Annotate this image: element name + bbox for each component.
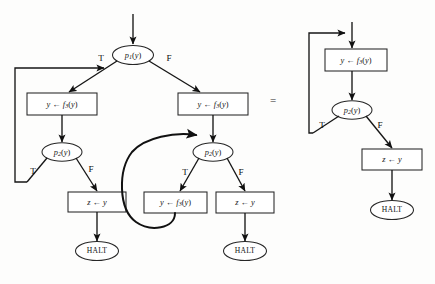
node2-z-label: z ← y [381,154,402,163]
right-diagram: y ← f3(y) p2(y) T F z ← y HALT [309,22,422,220]
node2-halt-label: HALT [382,205,403,214]
edge-label2-p2-true: T [319,120,325,130]
flowchart-canvas: p1(y) T F y ← f3(y) y ← f3(y) p2(y) p2(y… [0,0,435,284]
edge-p1-false [149,61,200,92]
edge-label-p1-true: T [98,53,104,63]
edge-left-p2-false [76,158,97,191]
node-left-p2-label: p2(y) [53,147,71,156]
node-left-halt-label: HALT [87,246,108,255]
node-right-halt-label: HALT [235,246,256,255]
node-left-z-label: z ← y [86,197,107,206]
edge-label-p1-false: F [166,53,171,63]
edge-label-right-p2-true: T [182,167,188,177]
node-p1-label: p1(y) [124,50,142,59]
equivalence-symbol: = [270,94,276,106]
edge-label-right-p2-false: F [238,167,243,177]
flowchart-figure: p1(y) T F y ← f3(y) y ← f3(y) p2(y) p2(y… [0,0,435,284]
node2-assign-label: y ← f3(y) [340,55,372,64]
edge2-loopback [309,33,345,133]
edge-loopback-mid-assign [122,134,196,228]
node-right-z-label: z ← y [234,197,255,206]
node-right-assign-label: y ← f3(y) [197,99,229,108]
edge-p1-true [69,61,117,92]
left-diagram: p1(y) T F y ← f3(y) y ← f3(y) p2(y) p2(y… [15,14,274,261]
edge2-p2-true [313,116,339,133]
node-mid-assign-label: y ← f3(y) [159,197,191,206]
edge-label-left-p2-false: F [88,164,93,174]
node-left-assign-label: y ← f3(y) [46,99,78,108]
node2-p2-label: p2(y) [343,105,361,114]
node-right-p2-label: p2(y) [204,147,222,156]
edge-label2-p2-false: F [377,120,382,130]
edge-label-left-p2-true: T [30,166,36,176]
